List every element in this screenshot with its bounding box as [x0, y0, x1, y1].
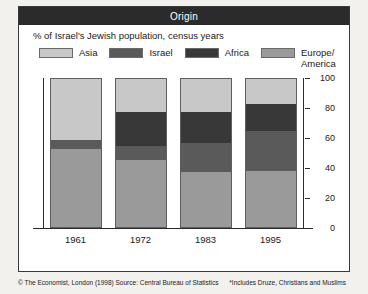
bar-segment-europe-america-1995	[246, 171, 296, 227]
x-tick-label-1961: 1961	[50, 234, 102, 245]
bar-1983	[180, 78, 232, 228]
bar-segment-europe-america-1972	[116, 160, 166, 227]
y-tick-mark-40	[305, 168, 310, 169]
y-tick-mark-0	[305, 228, 310, 229]
y-tick-label-100: 100	[309, 73, 335, 83]
chart-legend: Asia Israel Africa Europe/America	[39, 47, 339, 69]
chart-footer: © The Economist, London (1998) Source: C…	[18, 276, 350, 288]
y-tick-label-0: 0	[309, 223, 335, 233]
y-tick-mark-20	[305, 198, 310, 199]
y-axis: 020406080100	[305, 78, 349, 228]
bar-segment-africa-1983	[181, 112, 231, 143]
bar-segment-israel-1972	[116, 146, 166, 161]
legend-item-europe-america: Europe/America	[261, 47, 336, 69]
legend-swatch-africa	[185, 48, 219, 58]
legend-item-africa: Africa	[185, 47, 249, 58]
legend-label-europe-america: Europe/America	[301, 47, 336, 69]
bar-segment-asia-1995	[246, 79, 296, 104]
y-tick-label-80: 80	[309, 103, 335, 113]
page-title: Origin	[170, 11, 198, 22]
bar-segment-asia-1961	[51, 79, 101, 140]
y-tick-mark-100	[305, 78, 310, 79]
legend-item-asia: Asia	[39, 47, 97, 58]
bar-segment-israel-1961	[51, 140, 101, 149]
bar-1972	[115, 78, 167, 228]
legend-item-israel: Israel	[109, 47, 172, 58]
x-tick-label-1995: 1995	[245, 234, 297, 245]
bar-1961	[50, 78, 102, 228]
bar-segment-israel-1983	[181, 143, 231, 173]
legend-swatch-asia	[39, 48, 73, 58]
bar-segment-africa-1995	[246, 104, 296, 131]
chart-subtitle: % of Israel's Jewish population, census …	[33, 30, 224, 41]
bar-group	[44, 78, 303, 228]
chart-title-bar: Origin	[19, 7, 349, 25]
legend-label-asia: Asia	[79, 47, 97, 58]
y-tick-mark-60	[305, 138, 310, 139]
bar-segment-asia-1972	[116, 79, 166, 112]
legend-label-israel: Israel	[149, 47, 172, 58]
bar-segment-israel-1995	[246, 131, 296, 171]
source-credit: © The Economist, London (1998) Source: C…	[18, 279, 219, 286]
legend-swatch-israel	[109, 48, 143, 58]
plot-area: 020406080100 1961197219831995	[19, 69, 349, 249]
legend-swatch-europe-america	[261, 48, 295, 58]
bar-segment-europe-america-1961	[51, 149, 101, 227]
chart-panel: Origin % of Israel's Jewish population, …	[18, 6, 350, 272]
bars-region	[43, 78, 303, 228]
bar-segment-africa-1972	[116, 112, 166, 146]
bar-segment-asia-1983	[181, 79, 231, 112]
y-tick-label-60: 60	[309, 133, 335, 143]
bar-segment-europe-america-1983	[181, 172, 231, 227]
y-tick-mark-80	[305, 108, 310, 109]
x-tick-label-1972: 1972	[115, 234, 167, 245]
bar-1995	[245, 78, 297, 228]
chart-footnote: *Includes Druze, Christians and Muslims	[229, 279, 346, 286]
y-tick-label-20: 20	[309, 193, 335, 203]
y-axis-line	[303, 78, 304, 228]
legend-label-africa: Africa	[225, 47, 249, 58]
y-tick-label-40: 40	[309, 163, 335, 173]
x-tick-label-1983: 1983	[180, 234, 232, 245]
x-axis-labels: 1961197219831995	[43, 229, 303, 249]
